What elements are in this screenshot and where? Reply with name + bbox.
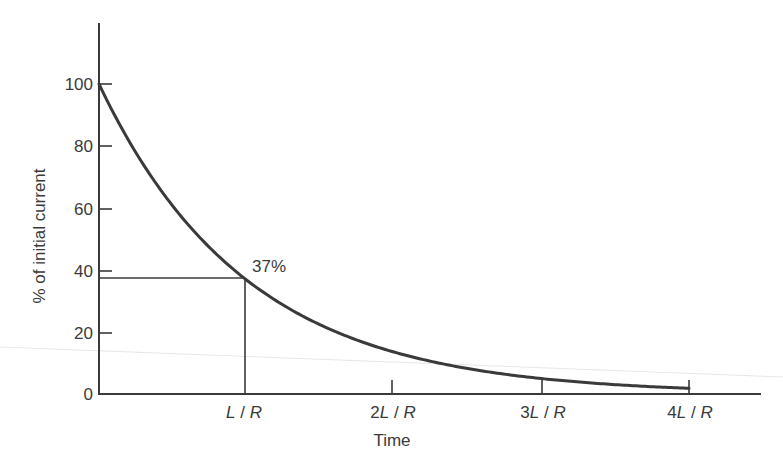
x-tick-label-1-L: L: [226, 403, 235, 422]
y-tick-label-0: 0: [53, 386, 93, 403]
x-tick-label-3-R: R: [553, 403, 565, 422]
annotation-37-percent: 37%: [252, 257, 286, 277]
x-tick-label-1-R: R: [250, 403, 262, 422]
y-tick-label-100: 100: [53, 76, 93, 93]
x-tick-label-4-sep: /: [686, 403, 700, 422]
x-tick-label-4-R: R: [700, 403, 712, 422]
y-tick-label-60: 60: [53, 201, 93, 218]
y-tick-label-80: 80: [53, 138, 93, 155]
x-tick-label-2-pre: 2: [370, 403, 379, 422]
x-tick-label-2: 2L / R: [353, 404, 433, 421]
y-axis-title: % of initial current: [30, 168, 50, 303]
x-tick-label-1-sep: /: [236, 403, 250, 422]
y-tick-label-20: 20: [53, 325, 93, 342]
x-axis-title: Time: [373, 431, 410, 451]
decay-curve: [99, 84, 689, 388]
x-tick-label-3: 3L / R: [503, 404, 583, 421]
x-tick-label-4-pre: 4: [667, 403, 676, 422]
x-tick-label-3-L: L: [530, 403, 539, 422]
x-tick-label-3-pre: 3: [520, 403, 529, 422]
x-tick-label-4: 4L / R: [650, 404, 730, 421]
x-tick-label-1: L / R: [204, 404, 284, 421]
tau-guide-lines: [99, 278, 245, 394]
y-tick-label-40: 40: [53, 263, 93, 280]
x-tick-label-2-L: L: [380, 403, 389, 422]
x-tick-label-3-sep: /: [539, 403, 553, 422]
x-tick-label-2-R: R: [403, 403, 415, 422]
y-ticks: [99, 84, 112, 333]
x-tick-label-4-L: L: [677, 403, 686, 422]
decay-chart: [0, 0, 783, 468]
x-tick-label-2-sep: /: [389, 403, 403, 422]
